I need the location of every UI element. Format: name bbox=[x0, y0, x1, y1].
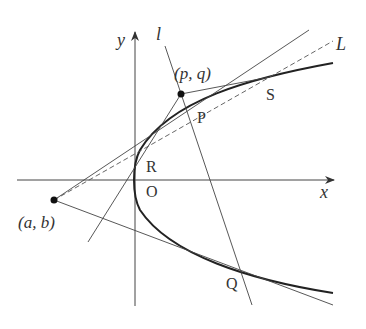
line-l-label: l bbox=[156, 24, 161, 44]
x-axis-label: x bbox=[319, 182, 328, 202]
point-P-label: P bbox=[197, 109, 206, 126]
point-ab bbox=[51, 197, 58, 204]
point-pq-label: (p, q) bbox=[174, 64, 211, 83]
line-L-label: L bbox=[335, 34, 346, 54]
y-axis-label: y bbox=[115, 30, 125, 50]
point-pq bbox=[178, 91, 185, 98]
parabola-diagram: y x l L O R P S Q (p, q) (a, b) bbox=[0, 0, 366, 329]
point-ab-label: (a, b) bbox=[18, 213, 55, 232]
tangent-line-upper-from-ab bbox=[54, 30, 309, 200]
point-S-label: S bbox=[266, 86, 275, 103]
parabola-curve bbox=[134, 63, 333, 293]
origin-label: O bbox=[146, 183, 158, 200]
point-R-label: R bbox=[146, 158, 157, 175]
point-Q-label: Q bbox=[226, 275, 238, 292]
tangent-line-lower-from-ab bbox=[54, 200, 333, 305]
